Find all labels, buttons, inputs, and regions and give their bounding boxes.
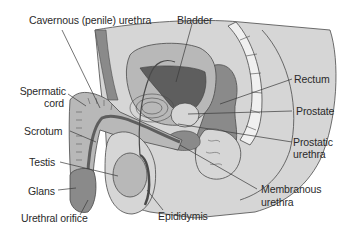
label-epididymis: Epididymis [158,210,208,222]
label-testis: Testis [29,156,55,168]
label-cavernous-urethra: Cavernous (penile) urethra [29,14,151,26]
label-bladder: Bladder [177,14,213,26]
label-prostate: Prostate [296,105,334,117]
glans [70,168,96,212]
testis [113,153,147,197]
label-spermatic-cord-line2: cord [44,97,64,109]
label-scrotum: Scrotum [24,125,62,137]
label-rectum: Rectum [294,73,330,85]
label-spermatic-cord-line1: Spermatic [14,85,66,97]
prostate [171,103,199,127]
label-membranous-urethra-line1: Membranous [261,183,321,195]
label-prostatic-urethra-line2: urethra [293,148,326,160]
label-glans: Glans [28,185,55,197]
label-prostatic-urethra-line1: Prostatic [293,136,333,148]
label-membranous-urethra-line2: urethra [261,196,294,208]
label-urethral-orifice: Urethral orifice [21,212,88,224]
